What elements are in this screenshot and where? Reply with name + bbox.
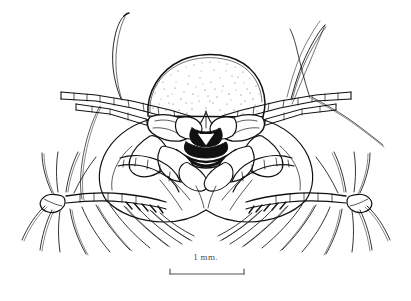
specimen-illustration <box>0 0 411 301</box>
figure-root: 1 mm. <box>0 0 411 301</box>
